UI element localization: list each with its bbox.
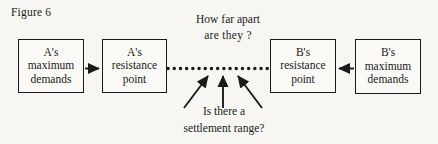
figure-6-negotiation-range-diagram: Figure 6 How far apart are they ? A's ma…	[0, 0, 438, 144]
bottom-question-line-1: Is there a	[146, 103, 302, 120]
bottom-question-line-2: settlement range?	[146, 120, 302, 137]
bottom-question-annotation: Is there a settlement range?	[146, 103, 302, 136]
